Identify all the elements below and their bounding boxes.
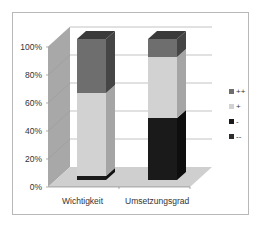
x-label-umsetzungsgrad: Umsetzungsgrad [125,196,189,206]
legend-item-plusplus: ++ [229,87,245,96]
legend-label: - [236,117,239,126]
chart-plot [0,0,259,227]
legend-item-minusminus: -- [229,132,241,141]
y-tick-100: 100% [14,42,42,52]
side-wall [48,27,70,187]
legend-swatch [229,134,234,139]
legend-swatch [229,104,234,109]
bar-umsetzungsgrad [148,31,186,180]
y-tick-20: 20% [14,154,42,164]
x-label-wichtigkeit: Wichtigkeit [62,196,103,206]
y-tick-60: 60% [14,98,42,108]
legend-label: -- [236,132,241,141]
y-tick-40: 40% [14,126,42,136]
floor [48,167,212,187]
y-axis [46,47,48,187]
legend-label: + [236,102,241,111]
gridlines [48,27,212,159]
legend-swatch [229,89,234,94]
bar-wichtigkeit [77,31,115,180]
legend-item-minus: - [229,117,239,126]
legend-label: ++ [236,87,245,96]
y-tick-0: 0% [14,182,42,192]
x-axis [48,187,190,189]
legend-item-plus: + [229,102,241,111]
y-tick-80: 80% [14,70,42,80]
legend-swatch [229,119,234,124]
